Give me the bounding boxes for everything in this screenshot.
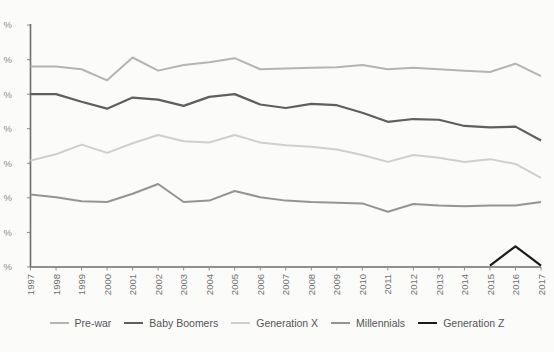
y-tick-label: % xyxy=(4,261,13,272)
legend-label: Baby Boomers xyxy=(149,317,218,329)
series-line-pre-war xyxy=(31,58,542,81)
legend-item-generation-x[interactable]: Generation X xyxy=(231,317,318,329)
legend-item-millennials[interactable]: Millennials xyxy=(331,317,405,329)
y-tick-label: % xyxy=(4,54,13,65)
x-tick-label: 2005 xyxy=(229,274,240,295)
x-tick-label: 2011 xyxy=(382,274,393,294)
line-chart: %%%%%%%%19971998199920002001200220032004… xyxy=(0,0,554,352)
legend-swatch-icon xyxy=(124,322,143,324)
x-tick-label: 2017 xyxy=(536,274,547,295)
chart-plot-area: %%%%%%%%19971998199920002001200220032004… xyxy=(0,0,554,352)
y-tick-label: % xyxy=(4,227,13,238)
legend-label: Generation Z xyxy=(443,317,504,329)
legend-label: Millennials xyxy=(356,317,405,329)
x-tick-label: 2016 xyxy=(510,274,521,295)
legend-label: Generation X xyxy=(256,317,318,329)
legend-swatch-icon xyxy=(331,322,350,324)
y-tick-label: % xyxy=(4,89,13,100)
x-tick-label: 2012 xyxy=(408,274,419,295)
legend-swatch-icon xyxy=(50,322,69,324)
legend-item-generation-z[interactable]: Generation Z xyxy=(418,317,504,329)
chart-legend: Pre-warBaby BoomersGeneration XMillennia… xyxy=(0,308,554,338)
series-line-generation-z xyxy=(490,246,541,265)
series-line-millennials xyxy=(31,184,542,212)
x-tick-label: 1997 xyxy=(25,274,36,295)
series-line-baby-boomers xyxy=(31,94,542,140)
x-tick-label: 2010 xyxy=(357,274,368,295)
legend-swatch-icon xyxy=(231,322,250,324)
legend-swatch-icon xyxy=(418,322,437,324)
x-tick-label: 2006 xyxy=(255,274,266,295)
x-tick-label: 2003 xyxy=(178,274,189,295)
x-tick-label: 1999 xyxy=(76,274,87,295)
x-tick-label: 2015 xyxy=(485,274,496,295)
x-tick-label: 1998 xyxy=(51,274,62,295)
y-tick-label: % xyxy=(4,123,13,134)
y-tick-label: % xyxy=(4,192,13,203)
y-tick-label: % xyxy=(4,19,13,30)
y-tick-label: % xyxy=(4,158,13,169)
series-line-generation-x xyxy=(31,135,542,178)
x-tick-label: 2002 xyxy=(153,274,164,295)
legend-item-baby-boomers[interactable]: Baby Boomers xyxy=(124,317,218,329)
legend-label: Pre-war xyxy=(75,317,112,329)
x-tick-label: 2013 xyxy=(434,274,445,295)
x-tick-label: 2000 xyxy=(102,274,113,295)
x-tick-label: 2007 xyxy=(280,274,291,295)
x-tick-label: 2004 xyxy=(204,274,215,295)
x-tick-label: 2008 xyxy=(306,274,317,295)
x-tick-label: 2001 xyxy=(127,274,138,295)
x-tick-label: 2014 xyxy=(459,274,470,295)
x-tick-label: 2009 xyxy=(331,274,342,295)
legend-item-pre-war[interactable]: Pre-war xyxy=(50,317,112,329)
